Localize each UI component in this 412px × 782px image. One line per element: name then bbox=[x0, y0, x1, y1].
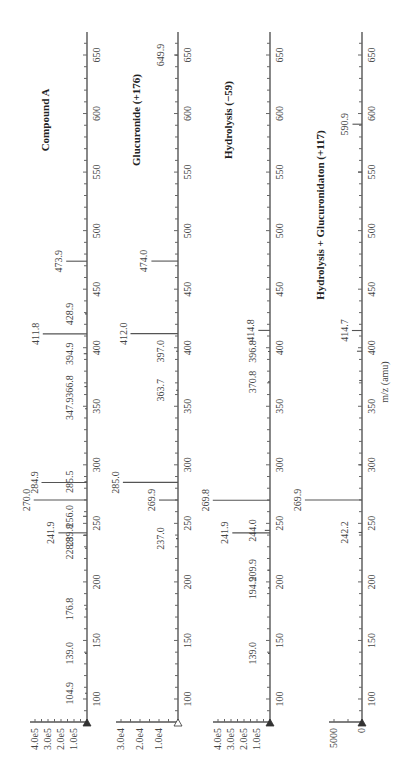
mz-tick-label: 450 bbox=[366, 282, 377, 297]
mz-tick-label: 150 bbox=[91, 633, 102, 648]
intensity-tick-label: 4.0e5 bbox=[212, 728, 223, 750]
peak-label: 104.9 bbox=[64, 682, 75, 705]
mz-tick-label: 250 bbox=[274, 516, 285, 531]
mz-tick-label: 450 bbox=[274, 282, 285, 297]
mz-tick-label: 500 bbox=[274, 223, 285, 238]
mz-tick-label: 600 bbox=[366, 106, 377, 121]
peak-label: 412.0 bbox=[118, 322, 129, 345]
peak-label: 394.9 bbox=[64, 342, 75, 365]
intensity-tick-label: 3.0e5 bbox=[225, 728, 236, 750]
peak-label: 256.0 bbox=[64, 505, 75, 528]
peak-label: 428.9 bbox=[64, 303, 75, 326]
intensity-tick-label: 1.0e5 bbox=[251, 728, 262, 750]
mz-tick-label: 600 bbox=[274, 106, 285, 121]
peak-label: 590.9 bbox=[339, 113, 350, 136]
intensity-tick-label: 2.0e4 bbox=[134, 728, 145, 750]
mz-tick-label: 200 bbox=[366, 574, 377, 589]
mz-tick-label: 350 bbox=[182, 399, 193, 414]
panel-title: Glucuronide (+176) bbox=[130, 74, 143, 166]
peak-label: 241.9 bbox=[219, 522, 230, 545]
mz-tick-label: 350 bbox=[366, 399, 377, 414]
peak-label: 347.9 bbox=[64, 397, 75, 420]
panel-title: Compound A bbox=[39, 89, 51, 152]
panels-layer: 1001502002503003504004505005506006501.0e… bbox=[21, 32, 377, 750]
peak-label: 139.0 bbox=[247, 642, 258, 665]
mz-tick-label: 300 bbox=[182, 457, 193, 472]
peak-label: 241.9 bbox=[45, 522, 56, 545]
mz-tick-label: 200 bbox=[182, 574, 193, 589]
peak-label: 370.8 bbox=[247, 371, 258, 394]
mz-tick-label: 100 bbox=[182, 691, 193, 706]
spectrum-panel: 1001502002503003504004505005506006501.0e… bbox=[21, 32, 102, 750]
mz-tick-label: 450 bbox=[91, 282, 102, 297]
mz-tick-label: 100 bbox=[274, 691, 285, 706]
intensity-tick-label: 2.0e5 bbox=[55, 728, 66, 750]
mz-tick-label: 550 bbox=[366, 165, 377, 180]
mz-tick-label: 400 bbox=[274, 340, 285, 355]
mass-spectra-figure: 1001502002503003504004505005506006501.0e… bbox=[0, 0, 412, 782]
mz-tick-label: 600 bbox=[91, 106, 102, 121]
peak-label: 237.0 bbox=[155, 527, 166, 550]
panel-title: Hydrolysis (−59) bbox=[222, 81, 235, 159]
peak-label: 284.9 bbox=[29, 471, 40, 494]
peak-label: 366.8 bbox=[64, 375, 75, 398]
mz-tick-label: 400 bbox=[182, 340, 193, 355]
panel-title: Hydrolysis + Glucuronidaton (+117) bbox=[314, 130, 327, 300]
intensity-tick-label: 1.0e5 bbox=[68, 728, 79, 750]
mz-tick-label: 650 bbox=[366, 48, 377, 63]
mz-tick-label: 200 bbox=[274, 574, 285, 589]
peak-label: 139.0 bbox=[64, 642, 75, 665]
mz-tick-label: 150 bbox=[182, 633, 193, 648]
mz-tick-label: 300 bbox=[274, 457, 285, 472]
mz-tick-label: 250 bbox=[182, 516, 193, 531]
peak-label: 363.7 bbox=[155, 379, 166, 402]
mz-tick-label: 250 bbox=[91, 516, 102, 531]
spectrum-panel: 1001502002503003504004505005506006501.0e… bbox=[200, 32, 285, 750]
mz-tick-label: 300 bbox=[366, 457, 377, 472]
peak-label: 244.0 bbox=[247, 519, 258, 542]
mz-tick-label: 550 bbox=[182, 165, 193, 180]
mz-tick-label: 100 bbox=[366, 691, 377, 706]
intensity-tick-label: 1.0e4 bbox=[153, 728, 164, 750]
mz-tick-label: 350 bbox=[91, 399, 102, 414]
intensity-tick-label: 4.0e5 bbox=[29, 728, 40, 750]
mz-tick-label: 150 bbox=[366, 633, 377, 648]
mz-tick-label: 350 bbox=[274, 399, 285, 414]
peak-label: 414.7 bbox=[339, 319, 350, 342]
peak-label: 269.8 bbox=[200, 489, 211, 512]
peak-label: 269.9 bbox=[146, 489, 157, 512]
intensity-tick-label: 0 bbox=[356, 728, 367, 733]
mz-tick-label: 600 bbox=[182, 106, 193, 121]
mz-tick-label: 500 bbox=[91, 223, 102, 238]
mz-tick-label: 650 bbox=[274, 48, 285, 63]
peak-label: 473.9 bbox=[53, 250, 64, 273]
mz-tick-label: 400 bbox=[91, 340, 102, 355]
peak-label: 414.8 bbox=[245, 319, 256, 342]
peak-label: 411.8 bbox=[30, 323, 41, 345]
mz-tick-label: 150 bbox=[274, 633, 285, 648]
peak-label: 474.0 bbox=[138, 250, 149, 273]
mz-tick-label: 500 bbox=[366, 223, 377, 238]
mass-spectra-chart: 1001502002503003504004505005506006501.0e… bbox=[0, 0, 412, 782]
mz-tick-label: 550 bbox=[274, 165, 285, 180]
mz-tick-label: 450 bbox=[182, 282, 193, 297]
peak-label: 285.0 bbox=[110, 471, 121, 494]
mz-tick-label: 500 bbox=[182, 223, 193, 238]
peak-label: 176.8 bbox=[64, 598, 75, 621]
peak-label: 209.9 bbox=[247, 559, 258, 582]
mz-tick-label: 100 bbox=[91, 691, 102, 706]
mz-tick-label: 550 bbox=[91, 165, 102, 180]
peak-label: 285.5 bbox=[64, 471, 75, 494]
intensity-tick-label: 3.0e4 bbox=[115, 728, 126, 750]
mz-tick-label: 250 bbox=[366, 516, 377, 531]
spectrum-panel: 1001502002503003504004505005506006501.0e… bbox=[110, 32, 193, 750]
peak-label: 242.2 bbox=[339, 521, 350, 544]
mz-tick-label: 650 bbox=[91, 48, 102, 63]
peak-label: 269.9 bbox=[292, 489, 303, 512]
mz-tick-label: 200 bbox=[91, 574, 102, 589]
spectrum-panel: 1001502002503003504004505005506006500500… bbox=[292, 32, 377, 748]
mz-tick-label: 650 bbox=[182, 48, 193, 63]
peak-label: 397.0 bbox=[155, 340, 166, 363]
x-axis-label: m/z (amu) bbox=[379, 361, 391, 402]
peak-label: 649.9 bbox=[155, 44, 166, 67]
